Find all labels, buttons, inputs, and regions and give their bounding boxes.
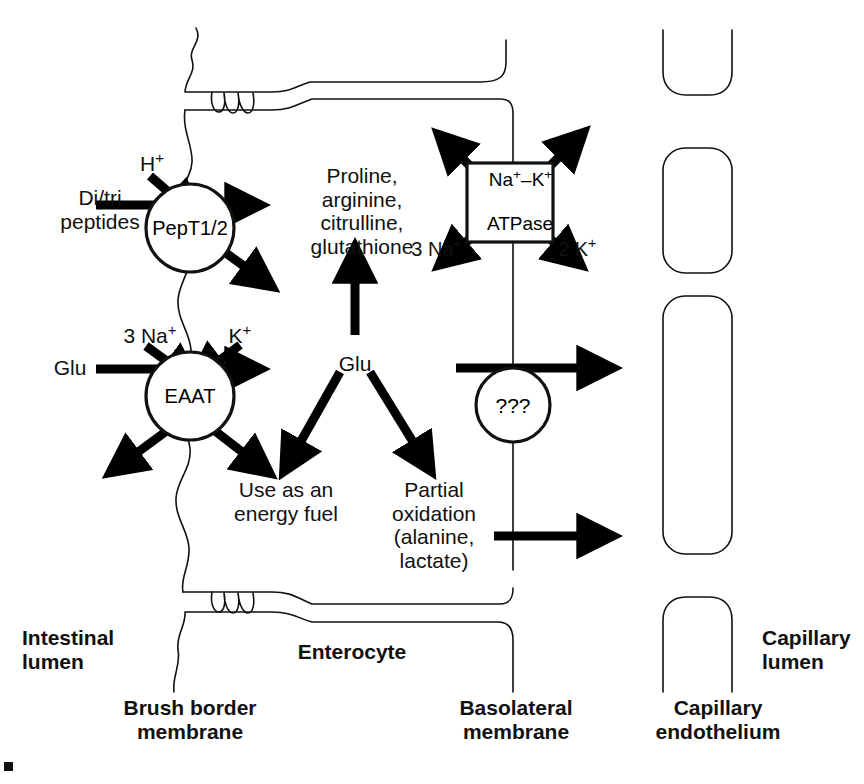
label-2-k-atpase: 2 K+ bbox=[558, 238, 596, 261]
transporter-label-na-k-atpase: Na+–K+ ATPase bbox=[467, 147, 553, 256]
upper-neighbour-cell bbox=[185, 28, 506, 92]
label-intestinal-lumen: Intestinallumen bbox=[22, 626, 114, 673]
atpase-line-1: Na+–K+ bbox=[489, 169, 553, 190]
label-partial-oxidation: Partialoxidation(alanine,lactate) bbox=[392, 478, 476, 573]
label-glu-cell: Glu bbox=[339, 352, 372, 376]
label-energy-fuel: Use as anenergy fuel bbox=[234, 478, 338, 525]
print-artifact bbox=[4, 762, 13, 771]
membrane-layer: .thin{fill:none;stroke:#111;stroke-width… bbox=[0, 0, 864, 784]
label-basolateral-membrane: Basolateralmembrane bbox=[459, 696, 572, 743]
atpase-line-2: ATPase bbox=[487, 213, 553, 234]
label-3-na-lumen: 3 Na+ bbox=[123, 324, 176, 348]
label-capillary-lumen: Capillarylumen bbox=[762, 626, 851, 673]
label-glu-lumen: Glu bbox=[54, 356, 87, 380]
label-brush-border-membrane: Brush bordermembrane bbox=[123, 696, 256, 743]
label-capillary-endothelium: Capillaryendothelium bbox=[656, 696, 781, 743]
diagram-canvas: .thin{fill:none;stroke:#111;stroke-width… bbox=[0, 0, 864, 784]
transporter-label-unknown: ??? bbox=[495, 394, 530, 418]
label-h-plus: H+ bbox=[140, 152, 164, 176]
tight-junction-bottom bbox=[211, 592, 253, 613]
capillary-endothelium bbox=[663, 30, 732, 692]
transporter-label-pept: PepT1/2 bbox=[152, 217, 228, 240]
label-amino-acid-products: Proline,arginine,citrulline,glutathione bbox=[311, 164, 414, 259]
label-k-plus: K+ bbox=[229, 324, 252, 348]
label-3-na-atpase: 3 Na+ bbox=[411, 238, 462, 261]
transporter-label-eaat: EAAT bbox=[165, 385, 216, 408]
arrow-glu-to-partial-oxidation bbox=[370, 372, 418, 450]
label-enterocyte: Enterocyte bbox=[298, 640, 407, 664]
arrow-glu-to-energy-fuel bbox=[296, 372, 340, 450]
label-di-tri-peptides: Di/tripeptides bbox=[60, 186, 139, 233]
